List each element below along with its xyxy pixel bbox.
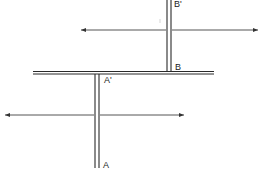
label-a-prime: A' [104, 76, 112, 85]
label-b: B [175, 63, 181, 72]
label-b-prime: B' [174, 0, 182, 9]
lower-vertical-bar [94, 74, 100, 168]
upper-vertical-bar [166, 0, 172, 72]
label-a: A [103, 161, 109, 170]
diagram: B' B A' A [0, 0, 260, 178]
diagram-canvas [0, 0, 260, 178]
horizontal-bar [33, 72, 214, 75]
